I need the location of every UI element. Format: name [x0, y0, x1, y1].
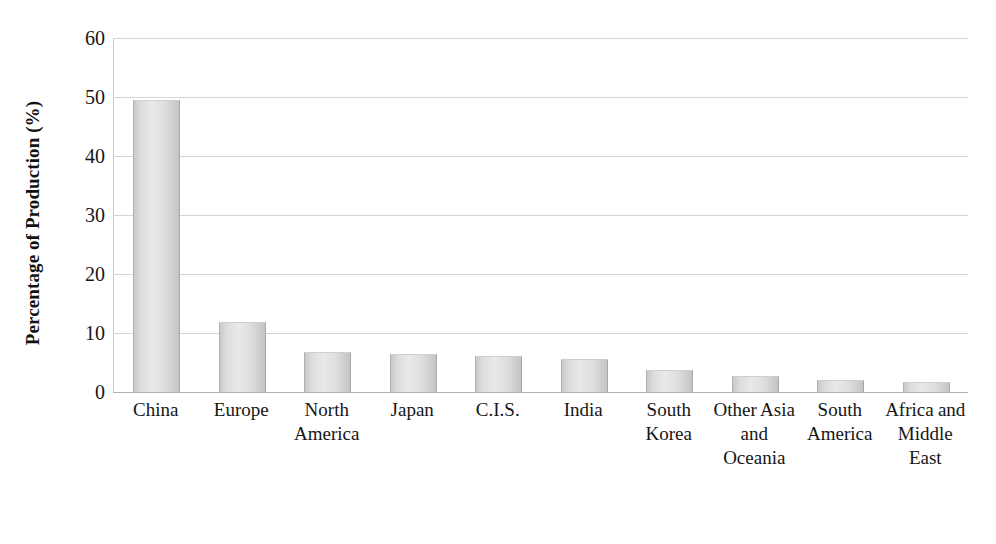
- bar-north-america[interactable]: [304, 352, 351, 392]
- bar-slot-south-america: [797, 38, 883, 392]
- bar-japan[interactable]: [390, 354, 437, 392]
- bars-layer: [113, 38, 968, 392]
- bar-slot-cis: [455, 38, 541, 392]
- bar-south-america[interactable]: [817, 380, 864, 392]
- bar-europe[interactable]: [219, 322, 266, 392]
- bar-cis[interactable]: [475, 356, 522, 392]
- x-label-north-america: North America: [284, 398, 370, 446]
- y-tick-label-40: 40: [57, 146, 105, 166]
- bar-slot-europe: [199, 38, 285, 392]
- bar-africa-and-middle-east[interactable]: [903, 382, 950, 392]
- x-label-china: China: [113, 398, 199, 422]
- y-tick-label-60: 60: [57, 28, 105, 48]
- bar-slot-other-asia: [712, 38, 798, 392]
- y-axis-title: Percentage of Production (%): [20, 43, 46, 403]
- bar-slot-south-korea: [626, 38, 712, 392]
- x-label-south-america: South America: [797, 398, 883, 446]
- bar-slot-japan: [370, 38, 456, 392]
- x-label-other-asia-and-oceania: Other Asia and Oceania: [712, 398, 798, 470]
- x-label-india: India: [541, 398, 627, 422]
- x-label-africa-and-middle-east: Africa and Middle East: [883, 398, 969, 470]
- bar-slot-china: [113, 38, 199, 392]
- bar-south-korea[interactable]: [646, 370, 693, 392]
- x-axis-category-labels: China Europe North America Japan C.I.S. …: [113, 398, 968, 544]
- y-axis-tick-labels: 0 10 20 30 40 50 60: [52, 0, 105, 544]
- y-tick-label-30: 30: [57, 205, 105, 225]
- x-label-south-korea: South Korea: [626, 398, 712, 446]
- y-tick-label-20: 20: [57, 264, 105, 284]
- plot-area: [113, 38, 968, 392]
- x-label-cis: C.I.S.: [455, 398, 541, 422]
- y-tick-label-50: 50: [57, 87, 105, 107]
- x-label-japan: Japan: [370, 398, 456, 422]
- bar-chart-figure: Percentage of Production (%) 0 10 20 30 …: [0, 0, 996, 544]
- bar-india[interactable]: [561, 359, 608, 392]
- y-tick-label-0: 0: [57, 382, 105, 402]
- bar-slot-north-america: [284, 38, 370, 392]
- bar-other-asia-and-oceania[interactable]: [732, 376, 779, 392]
- gridline-baseline-0: [113, 392, 968, 393]
- x-label-europe: Europe: [199, 398, 285, 422]
- bar-slot-africa-me: [883, 38, 969, 392]
- bar-slot-india: [541, 38, 627, 392]
- y-tick-label-10: 10: [57, 323, 105, 343]
- bar-china[interactable]: [133, 100, 180, 392]
